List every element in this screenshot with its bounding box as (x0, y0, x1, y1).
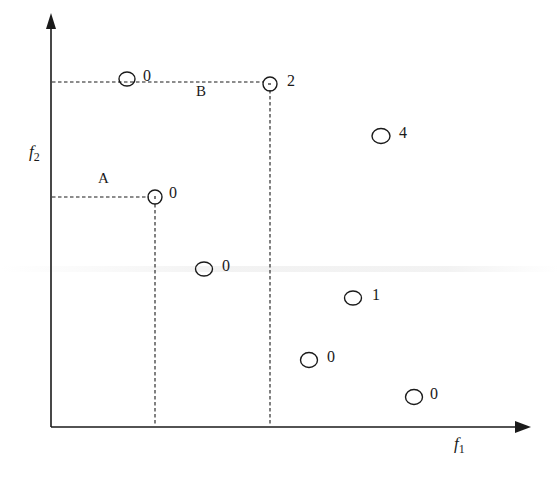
x-axis-label-sub: 1 (459, 442, 465, 456)
point-0 (119, 72, 135, 86)
point-5 (345, 291, 362, 305)
solution-points (119, 72, 423, 405)
y-axis-arrow-icon (46, 13, 56, 29)
pareto-ranking-diagram: 0 2 4 0 0 1 0 0 A B f2 f1 (0, 0, 558, 482)
rank-label: 0 (430, 385, 438, 402)
rank-label: 0 (222, 257, 230, 274)
rank-label: 1 (372, 286, 380, 303)
point-4 (196, 262, 213, 276)
rank-label: 0 (143, 67, 151, 84)
rank-labels: 0 2 4 0 0 1 0 0 (143, 67, 438, 402)
rank-label: 0 (169, 184, 177, 201)
projection-lines (52, 82, 270, 426)
point-2 (372, 129, 390, 144)
point-7 (406, 390, 423, 405)
point-label-b: B (196, 83, 206, 99)
rank-label: 2 (287, 72, 295, 89)
x-axis-label: f1 (454, 434, 465, 456)
rank-label: 4 (399, 124, 407, 141)
point-6 (301, 353, 318, 368)
y-axis-label-sub: 2 (34, 150, 40, 164)
y-axis-label: f2 (29, 142, 40, 164)
rank-label: 0 (327, 348, 335, 365)
point-label-a: A (98, 170, 109, 186)
x-axis-arrow-icon (515, 421, 531, 433)
